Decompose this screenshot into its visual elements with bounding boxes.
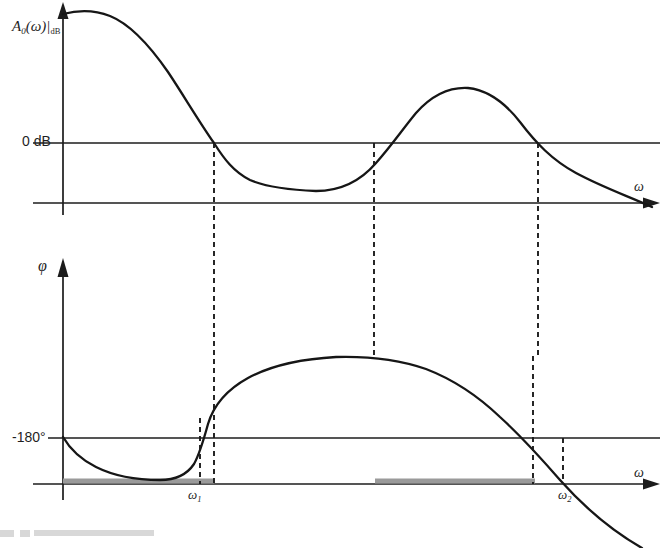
zero-db-label: 0 dB: [22, 134, 51, 148]
magnitude-x-axis-label: ω: [634, 180, 644, 194]
scan-edge-artifact-mid: [20, 530, 30, 537]
magnitude-axis-label: A0(ω)|dB: [12, 19, 61, 36]
omega-2-subscript: 2: [567, 494, 571, 504]
phase-y-axis: [58, 258, 69, 500]
omega-1-subscript: 1: [197, 494, 201, 504]
minus-180-label: -180°: [12, 430, 46, 444]
scan-edge-artifacts: [0, 520, 663, 548]
magnitude-curve: [63, 11, 652, 207]
magnitude-y-axis-arrowhead: [58, 2, 69, 19]
omega-1-symbol: ω: [188, 487, 197, 502]
bode-plot-canvas: [0, 0, 663, 548]
omega-2-symbol: ω: [558, 487, 567, 502]
magnitude-axis-label-symbol: A: [12, 18, 21, 34]
magnitude-x-axis: [33, 198, 660, 209]
magnitude-panel: [33, 2, 660, 215]
phase-y-axis-arrowhead: [58, 258, 69, 277]
magnitude-axis-label-arg: (ω)|: [26, 18, 51, 34]
omega-2-label: ω2: [558, 488, 571, 504]
scan-edge-artifact-left: [0, 530, 14, 537]
scan-edge-artifact-right: [34, 530, 154, 536]
phase-x-axis-label: ω: [634, 466, 644, 480]
bode-plot-figure: A0(ω)|dB 0 dB ω φ -180° ω ω1 ω2: [0, 0, 663, 548]
magnitude-axis-label-unit: dB: [50, 26, 60, 36]
phase-x-axis-arrowhead: [643, 479, 660, 490]
omega-1-label: ω1: [188, 488, 201, 504]
phase-axis-label: φ: [38, 258, 47, 274]
